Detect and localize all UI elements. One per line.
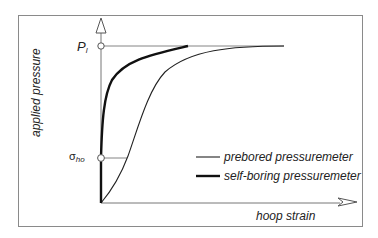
figure-frame	[19, 16, 363, 227]
x-axis-label: hoop strain	[256, 209, 316, 223]
legend-item-self-boring: self-boring pressuremeter	[224, 169, 362, 183]
tick-label-pl: Pl	[77, 39, 88, 55]
pl-marker-icon	[98, 43, 104, 49]
y-axis-arrow-icon	[96, 18, 106, 33]
tick-label-sigma-ho: σho	[69, 150, 85, 164]
legend: prebored pressuremeter self-boring press…	[196, 150, 362, 183]
x-axis-arrow-icon	[338, 198, 357, 206]
sigma-marker-icon	[98, 155, 105, 162]
legend-item-prebored: prebored pressuremeter	[223, 150, 354, 164]
pressuremeter-diagram: Pl σho applied pressure hoop strain preb…	[0, 0, 378, 238]
self-boring-curve	[101, 46, 188, 203]
y-axis-label: applied pressure	[29, 48, 43, 137]
